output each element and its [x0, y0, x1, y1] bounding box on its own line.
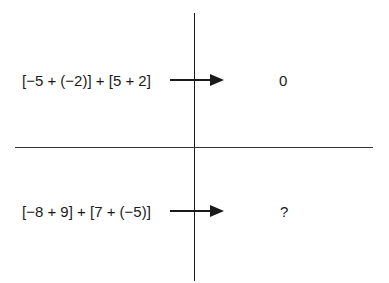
result-row-2: ? [280, 203, 288, 220]
arrow-right-icon [170, 74, 224, 86]
horizontal-divider [15, 147, 373, 148]
arrow-right-icon [170, 205, 224, 217]
expression-row-2: [−8 + 9] + [7 + (−5)] [22, 203, 151, 220]
expression-row-1: [−5 + (−2)] + [5 + 2] [22, 72, 151, 89]
result-row-1: 0 [279, 72, 287, 89]
